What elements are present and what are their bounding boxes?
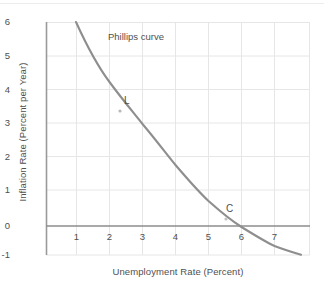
y-tick-label: 4 [0, 85, 10, 95]
x-tick-label: 5 [199, 231, 219, 242]
point-label-c: C [226, 203, 233, 214]
y-axis-title-wrapper: Inflation Rate (Percent per Year) [17, 12, 31, 252]
x-tick-label: 6 [232, 231, 252, 242]
y-tick-label: -1 [0, 250, 10, 260]
curve-series-label: Phillips curve [108, 31, 164, 42]
point-label-l: L [124, 95, 130, 106]
y-tick-label: 0 [0, 221, 10, 231]
vertical-gridlines [77, 22, 310, 255]
phillips-curve-chart: 6 5 4 3 2 1 0 -1 1 2 3 4 5 6 7 Phillips … [0, 0, 324, 290]
horizontal-gridlines [46, 23, 310, 256]
y-tick-label: 6 [0, 17, 10, 27]
x-axis-title: Unemployment Rate (Percent) [46, 266, 310, 277]
y-tick-label: 3 [0, 118, 10, 128]
curve-point-c-marker [224, 217, 227, 220]
y-tick-label: 2 [0, 152, 10, 162]
x-tick-label: 3 [133, 231, 153, 242]
x-tick-label: 2 [100, 231, 120, 242]
x-tick-label: 7 [265, 231, 285, 242]
plot-area [0, 0, 324, 290]
y-tick-label: 5 [0, 51, 10, 61]
x-tick-label: 1 [67, 231, 87, 242]
x-tick-label: 4 [166, 231, 186, 242]
curve-point-l-marker [118, 109, 121, 112]
y-tick-label: 1 [0, 185, 10, 195]
y-axis-title: Inflation Rate (Percent per Year) [17, 12, 28, 252]
